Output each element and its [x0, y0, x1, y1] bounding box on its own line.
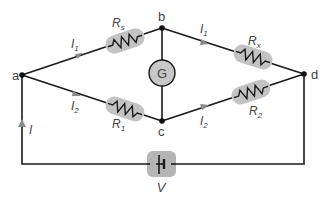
svg-text:I2: I2	[71, 99, 79, 115]
label-rx: Rx	[248, 34, 262, 50]
resistor-r2	[229, 77, 273, 107]
svg-text:R1: R1	[112, 117, 125, 133]
wire-b-d	[162, 28, 304, 74]
node-b	[159, 25, 165, 31]
galvanometer-label: G	[157, 66, 167, 81]
svg-text:I1: I1	[200, 22, 208, 38]
galvanometer: G	[149, 60, 175, 86]
arrow-i2-cd	[200, 104, 209, 110]
node-d-label: d	[311, 67, 318, 82]
svg-text:Rx: Rx	[248, 34, 262, 50]
battery-label: V	[157, 180, 167, 195]
svg-text:R2: R2	[249, 104, 263, 120]
resistor-r1	[103, 94, 147, 124]
label-i2-cd: I2	[200, 114, 208, 130]
node-c	[159, 118, 165, 124]
svg-text:Rs: Rs	[112, 16, 125, 32]
label-i2-ac: I2	[71, 99, 79, 115]
label-i-source: I	[29, 123, 33, 137]
battery	[147, 151, 176, 177]
label-r2: R2	[249, 104, 263, 120]
label-i1-bd: I1	[200, 22, 208, 38]
node-d	[301, 71, 307, 77]
node-b-label: b	[158, 9, 165, 24]
wheatstone-bridge-diagram: G V a b c d Rs Rx R1 R2 I1 I1 I2	[0, 0, 324, 198]
label-rs: Rs	[112, 16, 125, 32]
node-a-label: a	[12, 68, 20, 83]
svg-text:I1: I1	[71, 37, 79, 53]
node-a	[19, 72, 25, 78]
label-r1: R1	[112, 117, 125, 133]
arrow-i-source	[18, 119, 26, 127]
label-i1-ab: I1	[71, 37, 79, 53]
resistor-rs	[103, 26, 147, 56]
svg-text:I2: I2	[200, 114, 208, 130]
node-c-label: c	[158, 124, 165, 139]
